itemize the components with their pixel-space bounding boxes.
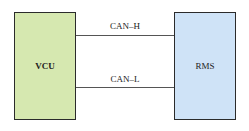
vcu-label: VCU [35, 61, 55, 71]
rms-node: RMS [174, 12, 236, 120]
can-l-connector [76, 87, 174, 88]
can-h-connector [76, 35, 174, 36]
vcu-node: VCU [14, 12, 76, 120]
can-l-label: CAN–L [76, 74, 174, 84]
can-h-label: CAN–H [76, 21, 174, 31]
rms-label: RMS [195, 61, 214, 71]
